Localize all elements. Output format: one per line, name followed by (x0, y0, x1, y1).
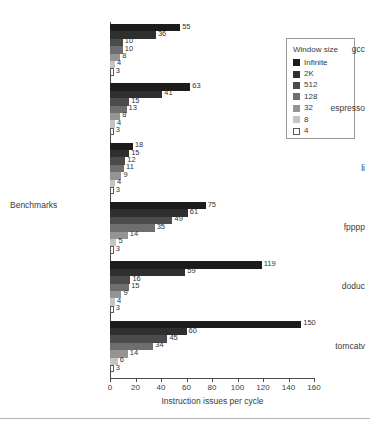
legend-item-label: Infinite (304, 58, 328, 68)
bar-row: 4 (110, 61, 314, 68)
legend-swatch-icon (293, 71, 300, 78)
bar-row: 14 (110, 350, 314, 357)
bar-chart-figure: 5536101084363411513843181512119437561493… (0, 0, 370, 430)
legend-item-label: 512 (304, 80, 317, 90)
x-axis-tick (161, 378, 162, 382)
bar-value-label: 59 (185, 266, 195, 276)
bar-row: 18 (110, 143, 314, 150)
x-axis-tick (110, 378, 111, 382)
bar[interactable] (110, 269, 185, 276)
legend-item[interactable]: 4 (293, 125, 354, 136)
bar[interactable] (110, 83, 190, 90)
bar-value-label: 35 (155, 222, 165, 232)
bar-value-label: 61 (188, 207, 198, 217)
bar-value-label: 75 (206, 200, 216, 210)
bar-row: 63 (110, 83, 314, 90)
legend-item-label: 4 (304, 126, 308, 136)
bar-value-label: 3 (114, 125, 120, 135)
bar-row: 3 (110, 246, 314, 253)
bar-row: 8 (110, 113, 314, 120)
x-axis-tick-label: 160 (299, 383, 329, 393)
bar-row: 3 (110, 68, 314, 75)
bar-value-label: 3 (114, 66, 120, 76)
bar-row: 4 (110, 120, 314, 127)
bar-row: 119 (110, 261, 314, 268)
bar-row: 3 (110, 187, 314, 194)
bar-value-label: 3 (114, 363, 120, 373)
legend-item[interactable]: 128 (293, 91, 354, 102)
bar[interactable] (110, 39, 123, 46)
y-axis-category-label: doduc (270, 281, 370, 291)
bar-row: 3 (110, 306, 314, 313)
bar-row: 14 (110, 232, 314, 239)
bar[interactable] (110, 321, 301, 328)
bar-value-label: 34 (153, 340, 163, 350)
bar-row: 6 (110, 358, 314, 365)
bar-row: 15 (110, 150, 314, 157)
bar-row: 61 (110, 209, 314, 216)
bar-value-label: 3 (114, 244, 120, 254)
legend-swatch-icon (293, 116, 300, 123)
legend-item[interactable]: Infinite (293, 57, 354, 68)
bar-row: 9 (110, 291, 314, 298)
x-axis-tick (212, 378, 213, 382)
legend-item-label: 2K (304, 69, 314, 79)
bar-value-label: 60 (187, 326, 197, 336)
y-axis-category-label: gcc (270, 44, 370, 54)
bar-row: 8 (110, 54, 314, 61)
legend-swatch-icon (293, 59, 300, 66)
y-axis-category-label: li (270, 163, 370, 173)
x-axis-tick (136, 378, 137, 382)
y-axis-category-label: tomcatv (270, 341, 370, 351)
bar-value-label: 150 (301, 318, 316, 328)
bar-row: 41 (110, 91, 314, 98)
bar-value-label: 63 (190, 81, 200, 91)
legend-item[interactable]: 8 (293, 114, 354, 125)
bar-row: 150 (110, 321, 314, 328)
legend-swatch-icon (293, 93, 300, 100)
x-axis-tick (314, 378, 315, 382)
plot-area: 5536101084363411513843181512119437561493… (110, 22, 314, 378)
legend-item-label: 128 (304, 92, 317, 102)
bar-row: 4 (110, 180, 314, 187)
x-axis-tick (263, 378, 264, 382)
bar-value-label: 14 (128, 229, 138, 239)
bar-value-label: 13 (127, 103, 137, 113)
bar-row: 36 (110, 31, 314, 38)
bar-value-label: 15 (129, 281, 139, 291)
bar-value-label: 3 (114, 303, 120, 313)
bar[interactable] (110, 24, 180, 31)
bar-row: 4 (110, 298, 314, 305)
bottom-divider (0, 418, 370, 419)
x-axis-tick (289, 378, 290, 382)
legend-items: Infinite2K5121283284 (293, 57, 354, 137)
bar-row: 3 (110, 128, 314, 135)
x-axis-tick (187, 378, 188, 382)
bar-row: 5 (110, 239, 314, 246)
bar-value-label: 14 (128, 348, 138, 358)
bar-value-label: 9 (121, 288, 127, 298)
bar-value-label: 9 (121, 170, 127, 180)
legend-item[interactable]: 512 (293, 80, 354, 91)
legend-swatch-icon (293, 82, 300, 89)
x-axis-tick (238, 378, 239, 382)
bar-value-label: 41 (162, 88, 172, 98)
bar-row: 75 (110, 202, 314, 209)
y-axis-title: Benchmarks (10, 200, 57, 210)
y-axis-category-label: espresso (270, 103, 370, 113)
bar-value-label: 3 (114, 185, 120, 195)
bar-value-label: 36 (156, 29, 166, 39)
bar-row: 60 (110, 328, 314, 335)
bar[interactable] (110, 157, 125, 164)
legend-item[interactable]: 2K (293, 68, 354, 79)
y-axis-category-label: fpppp (270, 222, 370, 232)
bar-value-label: 49 (172, 214, 182, 224)
bar-value-label: 45 (167, 333, 177, 343)
bar[interactable] (110, 276, 130, 283)
bar-row: 3 (110, 365, 314, 372)
bar-row: 55 (110, 24, 314, 31)
legend-swatch-icon (293, 128, 300, 135)
x-axis-title: Instruction issues per cycle (110, 396, 315, 406)
bar-value-label: 119 (262, 259, 276, 269)
bar-row: 9 (110, 172, 314, 179)
